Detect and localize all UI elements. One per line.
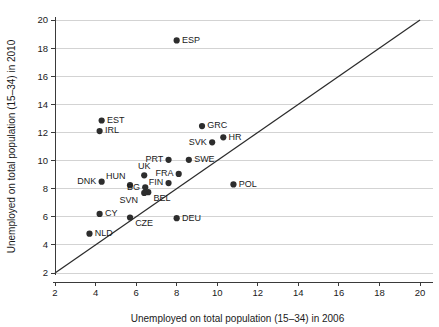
point-label-bel: BEL: [153, 193, 170, 203]
data-point-swe: SWE: [186, 154, 215, 164]
x-tick-label-14: 14: [293, 287, 304, 298]
point-label-cze: CZE: [135, 218, 153, 228]
y-tick-label-6: 6: [43, 211, 48, 222]
point-label-grc: GRC: [207, 120, 228, 130]
x-tick-label-16: 16: [334, 287, 345, 298]
y-tick-label-14: 14: [37, 99, 48, 110]
data-point-dnk: DNK: [77, 176, 104, 186]
data-point-svn: SVN: [120, 190, 148, 205]
scatter-chart-figure: 2468101214161820 2468101214161820 ESPEST…: [0, 0, 439, 327]
data-point-uk: UK: [138, 161, 151, 178]
marker-cy: [97, 211, 103, 217]
x-tick-label-8: 8: [174, 287, 179, 298]
y-tick-label-20: 20: [37, 14, 48, 25]
x-tick-label-6: 6: [133, 287, 138, 298]
point-label-bg: BG: [127, 182, 140, 192]
marker-fin: [165, 180, 171, 186]
data-point-fin: FIN: [149, 177, 172, 187]
data-point-est: EST: [99, 115, 125, 125]
point-label-irl: IRL: [105, 125, 119, 135]
x-axis-title: Unemployed on total population (15–34) i…: [131, 313, 345, 324]
point-label-svk: SVK: [189, 137, 207, 147]
point-label-deu: DEU: [182, 213, 201, 223]
data-point-deu: DEU: [174, 213, 201, 223]
marker-nld: [86, 231, 92, 237]
y-tick-label-2: 2: [43, 267, 48, 278]
x-tick-label-18: 18: [374, 287, 385, 298]
marker-pol: [230, 181, 236, 187]
x-tick-label-20: 20: [415, 287, 426, 298]
point-label-pol: POL: [239, 179, 257, 189]
y-axis-title: Unemployed on total population (15–34) i…: [6, 39, 17, 253]
point-label-svn: SVN: [120, 195, 139, 205]
marker-dnk: [99, 179, 105, 185]
data-point-hr: HR: [220, 132, 242, 142]
y-tick-label-18: 18: [37, 43, 48, 54]
marker-uk: [141, 172, 147, 178]
marker-deu: [174, 215, 180, 221]
marker-grc: [199, 123, 205, 129]
point-label-uk: UK: [138, 161, 151, 171]
point-label-fin: FIN: [149, 177, 164, 187]
marker-svn: [141, 190, 147, 196]
y-axis-ticks: 2468101214161820: [37, 14, 55, 278]
y-tick-label-10: 10: [37, 155, 48, 166]
data-point-irl: IRL: [97, 125, 119, 135]
point-label-nld: NLD: [95, 228, 114, 238]
marker-cze: [127, 214, 133, 220]
axes: [53, 17, 433, 282]
data-point-pol: POL: [230, 179, 256, 189]
x-tick-label-12: 12: [252, 287, 263, 298]
data-points: ESPESTIRLGRCHRSVKPRTSWEFRAUKHUNDNKFINBGP…: [77, 35, 256, 238]
x-tick-label-10: 10: [212, 287, 223, 298]
point-label-dnk: DNK: [77, 176, 96, 186]
point-label-hr: HR: [229, 132, 242, 142]
point-label-esp: ESP: [182, 35, 200, 45]
plot-canvas: 2468101214161820 2468101214161820 ESPEST…: [0, 0, 439, 327]
x-tick-label-2: 2: [52, 287, 57, 298]
y-tick-label-8: 8: [43, 183, 48, 194]
marker-esp: [174, 37, 180, 43]
data-point-nld: NLD: [86, 228, 113, 238]
marker-fra: [176, 171, 182, 177]
marker-prt: [165, 157, 171, 163]
marker-hr: [220, 134, 226, 140]
data-point-bel: BEL: [145, 189, 170, 203]
marker-est: [99, 117, 105, 123]
marker-irl: [97, 128, 103, 134]
y-tick-label-16: 16: [37, 71, 48, 82]
data-point-svk: SVK: [189, 137, 215, 147]
point-label-cy: CY: [105, 208, 118, 218]
y-tick-label-4: 4: [43, 239, 48, 250]
x-axis-ticks: 2468101214161820: [52, 282, 425, 298]
data-point-cy: CY: [97, 208, 118, 218]
point-label-swe: SWE: [194, 154, 215, 164]
data-point-grc: GRC: [199, 120, 228, 130]
marker-svk: [209, 139, 215, 145]
axis-titles: Unemployed on total population (15–34) i…: [6, 39, 345, 324]
point-label-hun: HUN: [106, 171, 126, 181]
data-point-esp: ESP: [174, 35, 200, 45]
point-label-est: EST: [107, 115, 125, 125]
x-tick-label-4: 4: [93, 287, 98, 298]
marker-swe: [186, 157, 192, 163]
y-tick-label-12: 12: [37, 127, 48, 138]
